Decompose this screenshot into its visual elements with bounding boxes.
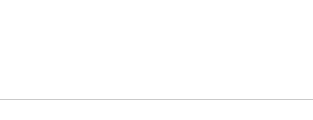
x-axis-ticks [0,102,313,118]
x-axis-line [0,99,313,100]
data-label-layer [0,26,313,98]
line-chart [0,0,313,120]
